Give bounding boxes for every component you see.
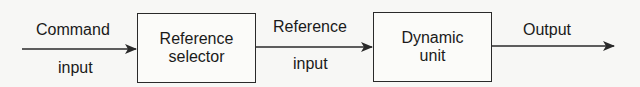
- dynamic-unit-label-line2: unit: [420, 47, 446, 65]
- command-input-label-top: Command: [36, 21, 110, 39]
- command-input-label-bottom: input: [58, 59, 93, 77]
- dynamic-unit-block: Dynamic unit: [373, 12, 492, 82]
- block-diagram: Command input Reference selector Referen…: [0, 0, 640, 87]
- reference-input-label-top: Reference: [273, 18, 347, 36]
- reference-selector-block: Reference selector: [137, 13, 256, 83]
- reference-selector-label-line1: Reference: [160, 30, 234, 48]
- dynamic-unit-label-line1: Dynamic: [401, 29, 463, 47]
- connector-layer: [0, 0, 640, 87]
- reference-input-label-bottom: input: [293, 55, 328, 73]
- reference-selector-label-line2: selector: [168, 48, 224, 66]
- output-label: Output: [523, 21, 571, 39]
